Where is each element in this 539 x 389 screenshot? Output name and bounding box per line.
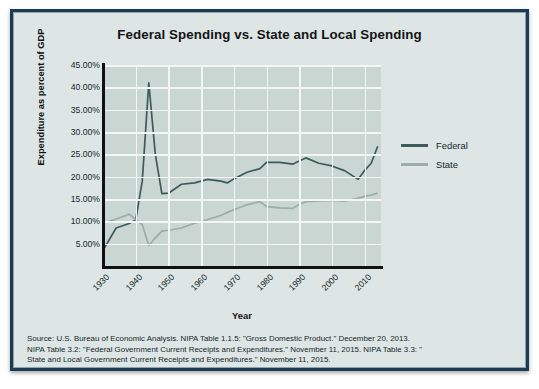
y-tick-label: 25.00% (42, 149, 100, 159)
y-tick-label: 35.00% (42, 105, 100, 115)
plot-area (103, 65, 381, 266)
gridline-vertical (168, 65, 170, 266)
x-tick-label: 1980 (254, 272, 275, 293)
y-tick-label: 15.00% (42, 194, 100, 204)
y-tick-label: 10.00% (42, 216, 100, 226)
gridline-horizontal (103, 177, 381, 179)
x-axis-tick-labels: 193019401950196019701980199020002010 (103, 270, 381, 310)
series-lines (103, 65, 381, 266)
source-line-3: State and Local Government Current Recei… (27, 355, 512, 366)
legend-label: State (436, 159, 458, 170)
x-tick-label: 1970 (221, 272, 242, 293)
gridline-horizontal (103, 154, 381, 156)
legend-item-federal[interactable]: Federal (401, 136, 516, 155)
x-tick-label: 1990 (287, 272, 308, 293)
y-tick-label: 45.00% (42, 60, 100, 70)
gridline-vertical (136, 65, 138, 266)
x-axis-title: Year (103, 310, 381, 321)
y-axis-line (102, 63, 105, 268)
y-tick-label: 20.00% (42, 172, 100, 182)
y-axis-tick-labels: 45.00%40.00%35.00%30.00%25.00%20.00%15.0… (38, 65, 100, 266)
x-tick-label: 1950 (156, 272, 177, 293)
gridline-horizontal (103, 110, 381, 112)
legend-swatch-icon (401, 144, 428, 146)
source-note: Source: U.S. Bureau of Economic Analysis… (27, 334, 512, 366)
gridline-vertical (234, 65, 236, 266)
gridline-horizontal (103, 132, 381, 134)
x-tick-label: 2010 (352, 272, 373, 293)
x-tick-label: 1940 (123, 272, 144, 293)
gridline-horizontal (103, 87, 381, 89)
gridline-horizontal (103, 65, 381, 67)
gridline-horizontal (103, 221, 381, 223)
chart-legend: FederalState (401, 136, 516, 174)
source-line-1: Source: U.S. Bureau of Economic Analysis… (27, 334, 512, 345)
y-tick-label: 30.00% (42, 127, 100, 137)
gridline-vertical (201, 65, 203, 266)
gridline-vertical (365, 65, 367, 266)
x-axis-line (102, 266, 383, 269)
source-line-2: NIPA Table 3.2: "Federal Government Curr… (27, 345, 512, 356)
gridline-horizontal (103, 199, 381, 201)
legend-item-state[interactable]: State (401, 155, 516, 174)
chart-figure-frame: Federal Spending vs. State and Local Spe… (10, 9, 529, 371)
legend-label: Federal (436, 140, 468, 151)
y-tick-label: 40.00% (42, 82, 100, 92)
x-tick-label: 1930 (91, 272, 112, 293)
x-tick-label: 1960 (189, 272, 210, 293)
legend-swatch-icon (401, 163, 428, 165)
gridline-vertical (332, 65, 334, 266)
y-tick-label: 5.00% (42, 239, 100, 249)
gridline-vertical (299, 65, 301, 266)
series-line-state (103, 193, 378, 245)
plot-area-wrapper: Expenditure as percent of GDP 45.00%40.0… (13, 12, 532, 374)
series-line-federal (103, 83, 378, 251)
gridline-vertical (267, 65, 269, 266)
x-tick-label: 2000 (320, 272, 341, 293)
gridline-horizontal (103, 244, 381, 246)
